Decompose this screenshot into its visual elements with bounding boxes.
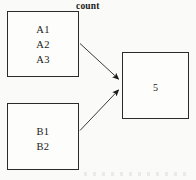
group-b-box[interactable]: B1 B2 (7, 103, 79, 170)
diagram-canvas: count A1 A2 A3 B1 B2 5 (0, 0, 196, 180)
scan-artifact (84, 172, 192, 176)
list-item: A1 (8, 25, 78, 36)
count-label: count (76, 1, 100, 11)
group-a-box[interactable]: A1 A2 A3 (7, 11, 79, 77)
list-item: B1 (8, 127, 78, 138)
edge-group-b-to-result (80, 90, 119, 131)
list-item: A3 (8, 55, 78, 66)
edge-group-a-to-result (80, 44, 119, 80)
list-item: A2 (8, 40, 78, 51)
result-value: 5 (123, 82, 188, 93)
result-box[interactable]: 5 (122, 52, 189, 119)
list-item: B2 (8, 142, 78, 153)
